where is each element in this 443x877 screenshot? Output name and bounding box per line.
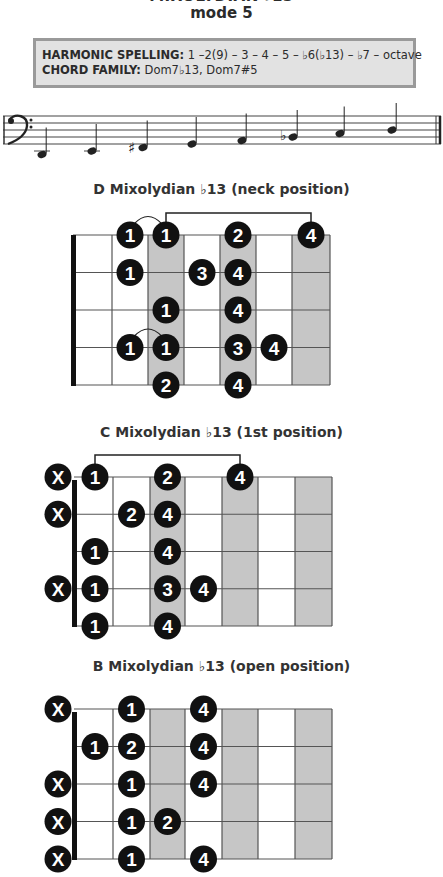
finger-dot: 4 bbox=[190, 733, 217, 760]
finger-dot: 4 bbox=[190, 846, 217, 873]
finger-dot: 1 bbox=[118, 846, 145, 873]
muted-x-label: X bbox=[52, 774, 65, 795]
finger-dot: 1 bbox=[118, 771, 145, 798]
muted-string-marker: X bbox=[45, 771, 72, 798]
finger-number: 4 bbox=[198, 849, 209, 870]
finger-dot: 4 bbox=[190, 771, 217, 798]
finger-number: 1 bbox=[126, 699, 137, 720]
muted-string-marker: X bbox=[45, 846, 72, 873]
finger-dot: 1 bbox=[82, 733, 109, 760]
finger-dot: 4 bbox=[190, 696, 217, 723]
finger-dot: 2 bbox=[154, 808, 181, 835]
nut-bar bbox=[72, 712, 77, 860]
muted-string-marker: X bbox=[45, 696, 72, 723]
finger-dot: 1 bbox=[118, 696, 145, 723]
finger-dot: 2 bbox=[118, 733, 145, 760]
muted-x-label: X bbox=[52, 699, 65, 720]
fretboard-diagram-open-position: XXXX14124141214 bbox=[0, 0, 443, 877]
finger-number: 2 bbox=[162, 812, 173, 833]
finger-number: 1 bbox=[90, 737, 101, 758]
muted-string-marker: X bbox=[45, 808, 72, 835]
finger-number: 4 bbox=[198, 699, 209, 720]
finger-number: 1 bbox=[126, 812, 137, 833]
finger-number: 2 bbox=[126, 737, 137, 758]
finger-dot: 1 bbox=[118, 808, 145, 835]
muted-x-label: X bbox=[52, 849, 65, 870]
finger-number: 1 bbox=[126, 849, 137, 870]
finger-number: 4 bbox=[198, 774, 209, 795]
finger-number: 1 bbox=[126, 774, 137, 795]
finger-number: 4 bbox=[198, 737, 209, 758]
muted-x-label: X bbox=[52, 812, 65, 833]
